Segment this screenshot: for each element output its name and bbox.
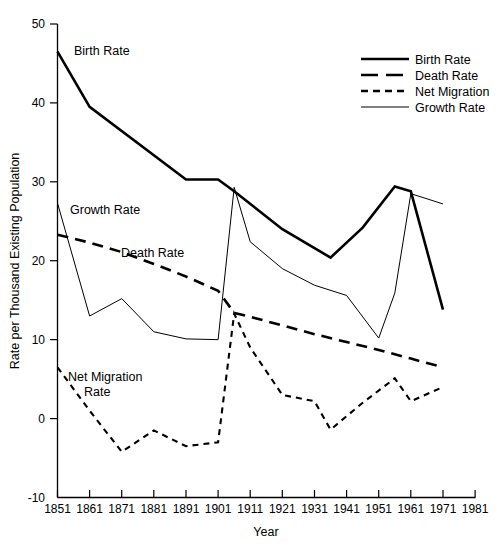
x-tick-label-1941: 1941 bbox=[333, 502, 360, 516]
x-axis-tick-labels: 1851 1861 1871 1881 1891 1901 1911 1921 … bbox=[44, 502, 489, 516]
x-tick-label-1951: 1951 bbox=[365, 502, 392, 516]
legend-label-net-migration: Net Migration bbox=[415, 85, 489, 99]
y-tick-label-50: 50 bbox=[32, 17, 46, 31]
net-migration-annotation-line2: Rate bbox=[84, 385, 110, 399]
x-tick-label-1861: 1861 bbox=[76, 502, 103, 516]
y-tick-label-40: 40 bbox=[32, 96, 46, 110]
x-tick-label-1891: 1891 bbox=[173, 502, 200, 516]
y-tick-label-minus-10: -10 bbox=[28, 491, 46, 505]
axes bbox=[58, 24, 476, 498]
x-tick-label-1921: 1921 bbox=[269, 502, 296, 516]
chart-container: 50 40 30 20 10 0 -10 Rate per Thousand E… bbox=[0, 0, 498, 554]
x-tick-label-1881: 1881 bbox=[140, 502, 167, 516]
y-tick-label-30: 30 bbox=[32, 175, 46, 189]
y-axis-ticks bbox=[50, 24, 58, 419]
x-axis-ticks bbox=[58, 490, 476, 498]
x-tick-label-1911: 1911 bbox=[237, 502, 263, 516]
y-tick-label-0: 0 bbox=[38, 412, 45, 426]
y-axis-tick-labels: 50 40 30 20 10 0 -10 bbox=[28, 17, 46, 505]
x-tick-label-1931: 1931 bbox=[301, 502, 328, 516]
net-migration-annotation-line1: Net Migration bbox=[68, 370, 142, 384]
legend-label-growth-rate: Growth Rate bbox=[415, 101, 485, 115]
legend-label-death-rate: Death Rate bbox=[415, 69, 478, 83]
x-tick-label-1971: 1971 bbox=[430, 502, 457, 516]
y-tick-label-10: 10 bbox=[32, 333, 46, 347]
x-tick-label-1901: 1901 bbox=[205, 502, 232, 516]
data-series-group bbox=[58, 52, 443, 452]
legend-label-birth-rate: Birth Rate bbox=[415, 53, 471, 67]
growth-rate-annotation: Growth Rate bbox=[70, 203, 140, 217]
x-tick-label-1981: 1981 bbox=[462, 502, 489, 516]
legend: Birth Rate Death Rate Net Migration Grow… bbox=[361, 53, 489, 115]
y-tick-label-20: 20 bbox=[32, 254, 46, 268]
birth-rate-annotation: Birth Rate bbox=[74, 44, 130, 58]
x-tick-label-1851: 1851 bbox=[44, 502, 71, 516]
y-axis-title: Rate per Thousand Existing Population bbox=[8, 153, 22, 370]
x-tick-label-1871: 1871 bbox=[108, 502, 135, 516]
x-tick-label-1961: 1961 bbox=[397, 502, 424, 516]
x-axis-title: Year bbox=[253, 525, 278, 539]
demographic-rates-line-chart: 50 40 30 20 10 0 -10 Rate per Thousand E… bbox=[0, 0, 498, 554]
death-rate-annotation: Death Rate bbox=[121, 246, 184, 260]
